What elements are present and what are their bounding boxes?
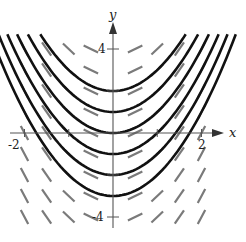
slope-segment [63,43,75,54]
slope-segment [198,210,205,224]
slope-segment [151,43,163,54]
slope-segment [21,147,28,161]
slope-segment [63,211,75,222]
slope-segment [84,46,98,53]
y-axis-arrow-icon [109,22,117,34]
x-tick-label-2: 2 [198,138,206,152]
slope-segment [128,46,142,53]
slope-segment [151,190,163,201]
slope-segment [42,210,51,223]
x-axis-label: x [229,125,237,140]
slope-segment [42,168,51,181]
slope-segment [42,189,51,202]
slope-segment [151,211,163,222]
slope-segment [21,189,28,203]
y-tick-label-4: 4 [98,42,106,56]
y-axis-label: y [108,7,117,22]
solution-curves [0,34,236,196]
slope-segment [128,67,142,74]
solution-curve [0,34,236,196]
slope-segment [84,67,98,74]
x-axis-arrow-icon [212,129,224,137]
slope-segment [198,189,205,203]
slope-segment [175,210,184,223]
x-tick-label-neg2: -2 [8,138,20,152]
slope-segment [175,168,184,181]
slope-segment [21,210,28,224]
slope-field-diagram: x y -2 2 4 -4 [0,0,246,242]
slope-segment [175,189,184,202]
slope-segment [198,168,205,182]
slope-segment [21,168,28,182]
slope-segment [63,190,75,201]
y-tick-label-neg4: -4 [92,210,104,224]
slope-segment [128,214,142,221]
